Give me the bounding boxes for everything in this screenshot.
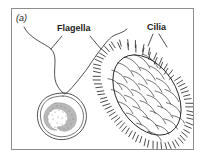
figure-border bbox=[11, 8, 194, 150]
panel-letter: (a) bbox=[16, 14, 27, 23]
cilia-label: Cilia bbox=[147, 23, 166, 32]
flagella-label: Flagella bbox=[57, 24, 91, 33]
figure-panel: (a) Flagella Cilia bbox=[0, 0, 205, 161]
